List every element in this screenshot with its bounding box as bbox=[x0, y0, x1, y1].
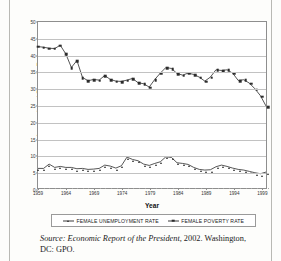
data-point-marker bbox=[217, 167, 219, 169]
legend-label-unemployment: FEMALE UNEMPLOYMENT RATE bbox=[76, 218, 158, 224]
x-tick-mark bbox=[206, 188, 207, 190]
data-point-marker bbox=[54, 168, 56, 170]
data-point-marker bbox=[267, 173, 269, 175]
data-point-marker bbox=[222, 166, 224, 168]
x-tick-mark-minor bbox=[156, 188, 157, 189]
data-point-marker bbox=[110, 79, 113, 82]
data-point-marker bbox=[261, 95, 264, 98]
data-point-marker bbox=[70, 67, 73, 70]
data-point-marker bbox=[126, 80, 129, 83]
data-point-marker bbox=[37, 169, 39, 171]
data-point-marker bbox=[244, 79, 247, 82]
data-point-marker bbox=[199, 76, 202, 79]
data-point-marker bbox=[239, 80, 242, 83]
x-tick-mark-minor bbox=[49, 188, 50, 189]
data-point-marker bbox=[104, 75, 107, 78]
figure: Unemployment and Poverty Rates 051015202… bbox=[10, 4, 271, 230]
data-point-marker bbox=[48, 47, 51, 50]
x-tick-mark-minor bbox=[189, 188, 190, 189]
x-tick-label: 1969 bbox=[89, 191, 99, 196]
gridline bbox=[38, 140, 266, 141]
data-point-marker bbox=[54, 48, 57, 51]
x-tick-mark bbox=[234, 188, 235, 190]
series-line bbox=[38, 45, 266, 106]
data-point-marker bbox=[132, 78, 135, 81]
data-point-marker bbox=[116, 169, 118, 171]
x-tick-mark bbox=[66, 188, 67, 190]
x-tick-mark bbox=[178, 188, 179, 190]
y-tick-label: 20 bbox=[30, 120, 35, 125]
gridline bbox=[38, 123, 266, 124]
y-tick-mark bbox=[36, 106, 38, 107]
legend-label-poverty: FEMALE POVERTY RATE bbox=[181, 218, 244, 224]
x-tick-mark-minor bbox=[111, 188, 112, 189]
data-point-marker bbox=[43, 169, 45, 171]
y-tick-mark bbox=[36, 139, 38, 140]
y-tick-mark bbox=[36, 38, 38, 39]
x-tick-mark bbox=[122, 188, 123, 190]
x-tick-mark-minor bbox=[83, 188, 84, 189]
data-point-marker bbox=[166, 67, 169, 70]
data-point-marker bbox=[59, 44, 62, 47]
data-point-marker bbox=[82, 169, 84, 171]
legend-item-poverty: FEMALE POVERTY RATE bbox=[168, 218, 244, 224]
data-point-marker bbox=[144, 165, 146, 167]
data-point-marker bbox=[87, 170, 89, 172]
x-tick-mark-minor bbox=[60, 188, 61, 189]
x-tick-mark-minor bbox=[88, 188, 89, 189]
legend-marker bbox=[172, 219, 175, 222]
chart-series-lines bbox=[38, 22, 266, 188]
data-point-marker bbox=[155, 164, 157, 166]
x-tick-mark-minor bbox=[201, 188, 202, 189]
x-tick-mark-minor bbox=[251, 188, 252, 189]
data-point-marker bbox=[93, 79, 96, 82]
data-point-marker bbox=[71, 168, 73, 170]
legend-marker bbox=[67, 220, 69, 222]
y-tick-label: 5 bbox=[33, 171, 36, 176]
data-point-marker bbox=[177, 163, 179, 165]
x-tick-mark-minor bbox=[100, 188, 101, 189]
y-tick-mark bbox=[36, 122, 38, 123]
y-tick-label: 10 bbox=[30, 154, 35, 159]
x-tick-mark-minor bbox=[218, 188, 219, 189]
x-tick-mark-minor bbox=[128, 188, 129, 189]
data-point-marker bbox=[138, 161, 140, 163]
y-tick-label: 35 bbox=[30, 70, 35, 75]
data-point-marker bbox=[188, 165, 190, 167]
y-tick-mark bbox=[36, 173, 38, 174]
x-tick-mark-minor bbox=[212, 188, 213, 189]
x-tick-label: 1964 bbox=[61, 191, 71, 196]
data-point-marker bbox=[121, 166, 123, 168]
gridline bbox=[38, 89, 266, 90]
data-point-marker bbox=[104, 166, 106, 168]
data-point-marker bbox=[166, 157, 168, 159]
chart-plot-area: 05101520253035404550 1959196419691974197… bbox=[37, 21, 267, 189]
x-tick-mark-minor bbox=[246, 188, 247, 189]
data-point-marker bbox=[194, 74, 197, 77]
data-point-marker bbox=[98, 80, 101, 83]
data-point-marker bbox=[127, 158, 129, 160]
data-point-marker bbox=[261, 175, 263, 177]
data-point-marker bbox=[227, 69, 230, 72]
x-axis-title: Year bbox=[37, 202, 267, 209]
data-point-marker bbox=[228, 167, 230, 169]
x-tick-mark-minor bbox=[145, 188, 146, 189]
x-tick-mark-minor bbox=[240, 188, 241, 189]
data-point-marker bbox=[99, 169, 101, 171]
gridline bbox=[38, 156, 266, 157]
x-tick-label: 1999 bbox=[257, 191, 267, 196]
gridline bbox=[38, 56, 266, 57]
gridline bbox=[38, 72, 266, 73]
data-point-marker bbox=[239, 170, 241, 172]
data-point-marker bbox=[115, 81, 118, 84]
data-point-marker bbox=[194, 168, 196, 170]
y-tick-mark bbox=[36, 89, 38, 90]
y-tick-label: 45 bbox=[30, 36, 35, 41]
gridline bbox=[38, 173, 266, 174]
data-point-marker bbox=[155, 79, 158, 82]
y-tick-label: 50 bbox=[30, 20, 35, 25]
data-point-marker bbox=[93, 170, 95, 172]
gridline bbox=[38, 106, 266, 107]
data-point-marker bbox=[250, 83, 253, 86]
data-point-marker bbox=[216, 69, 219, 72]
